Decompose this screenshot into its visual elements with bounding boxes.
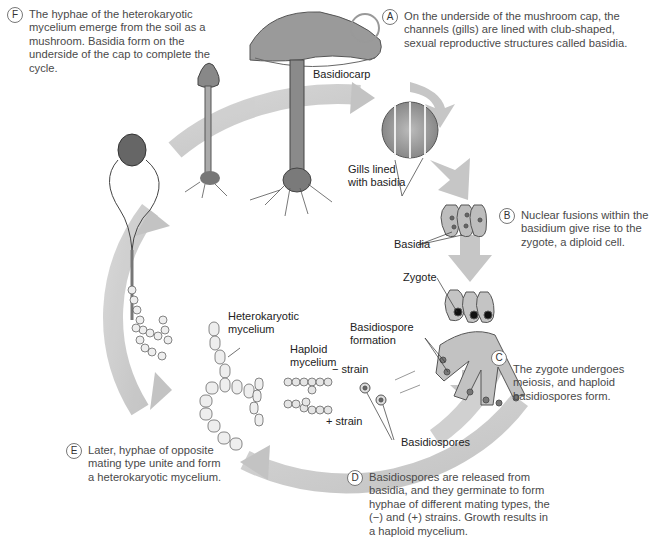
step-a-text: On the underside of the mushroom cap, th… (382, 10, 632, 50)
button-hyphae (128, 286, 172, 360)
basidia-cells (441, 205, 487, 237)
step-b-caption: B Nuclear fusions within the basidium gi… (499, 209, 658, 249)
label-heterokaryotic-line2: mycelium (228, 323, 274, 336)
step-d-caption: D Basidiospores are released from basidi… (347, 471, 557, 538)
step-b-badge: B (499, 208, 515, 224)
label-basidiocarp: Basidiocarp (313, 68, 370, 81)
step-e-badge: E (66, 443, 82, 459)
label-zygote: Zygote (403, 271, 437, 284)
label-basidiospores: Basidiospores (401, 436, 470, 449)
haploid-mycelium (284, 378, 332, 414)
step-d-badge: D (347, 470, 363, 486)
label-basidia: Basidia (394, 238, 430, 251)
label-haploid-line1: Haploid (290, 343, 327, 356)
label-plus-strain: + strain (326, 415, 362, 428)
label-heterokaryotic-line1: Heterokaryotic (228, 310, 299, 323)
label-basidiospore-formation-line1: Basidiospore (350, 321, 414, 334)
step-e-text: Later, hyphae of opposite mating type un… (66, 444, 226, 484)
step-d-text: Basidiospores are released from basidia,… (347, 471, 557, 538)
step-a-caption: A On the underside of the mushroom cap, … (382, 10, 632, 50)
step-f-badge: F (7, 7, 23, 23)
label-haploid-line2: mycelium (290, 356, 336, 369)
step-e-caption: E Later, hyphae of opposite mating type … (66, 444, 226, 484)
step-c-text: The zygote undergoes meiosis, and haploi… (491, 351, 641, 403)
step-b-text: Nuclear fusions within the basidium give… (499, 209, 658, 249)
label-basidiospore-formation-line2: formation (350, 334, 396, 347)
basidiospores (360, 371, 420, 440)
step-c-badge: C (491, 350, 507, 366)
step-a-badge: A (382, 9, 398, 25)
label-gills-line1: Gills lined (348, 163, 396, 176)
gill-magnified-view (382, 102, 438, 158)
step-c-caption: C The zygote undergoes meiosis, and hapl… (491, 351, 641, 403)
leader-lines (228, 158, 462, 372)
step-f-caption: F The hyphae of the heterokaryotic mycel… (7, 8, 212, 75)
zygote-cells (445, 290, 494, 323)
step-f-text: The hyphae of the heterokaryotic myceliu… (7, 8, 212, 75)
label-gills-line2: with basidia (348, 176, 405, 189)
heterokaryotic-mycelium (200, 322, 263, 450)
label-minus-strain: − strain (332, 363, 368, 376)
